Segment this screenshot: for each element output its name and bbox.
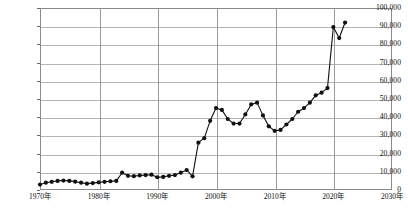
plot-area [40, 8, 392, 190]
y-tick-label: 40,000 [365, 113, 401, 121]
gridline-horizontal [41, 173, 391, 174]
gridline-vertical [276, 9, 277, 189]
x-tick-label: 2000年 [196, 193, 236, 201]
y-tick-label: 10,000 [365, 168, 401, 176]
y-tick-mark [37, 26, 40, 27]
gridline-vertical [334, 9, 335, 189]
y-tick-label: 30,000 [365, 131, 401, 139]
y-tick-mark [37, 99, 40, 100]
y-tick-mark [37, 190, 40, 191]
x-tick-label: 2010年 [255, 193, 295, 201]
gridline-vertical [158, 9, 159, 189]
y-tick-mark [37, 44, 40, 45]
y-tick-label: 60,000 [365, 77, 401, 85]
y-tick-mark [37, 117, 40, 118]
x-tick-label: 1970年 [20, 193, 60, 201]
gridline-horizontal [41, 155, 391, 156]
gridline-horizontal [41, 82, 391, 83]
y-tick-mark [37, 63, 40, 64]
x-tick-label: 1990年 [137, 193, 177, 201]
gridline-horizontal [41, 64, 391, 65]
y-tick-label: 50,000 [365, 95, 401, 103]
gridline-horizontal [41, 27, 391, 28]
y-tick-label: 80,000 [365, 40, 401, 48]
gridline-vertical [100, 9, 101, 189]
y-tick-label: 20,000 [365, 150, 401, 158]
y-tick-label: 100,000 [365, 4, 401, 12]
gridline-horizontal [41, 45, 391, 46]
y-tick-mark [37, 135, 40, 136]
gridline-horizontal [41, 100, 391, 101]
y-tick-label: 70,000 [365, 59, 401, 67]
gridline-vertical [217, 9, 218, 189]
x-tick-label: 2030年 [372, 193, 408, 201]
y-tick-mark [37, 172, 40, 173]
x-tick-label: 2020年 [313, 193, 353, 201]
y-tick-mark [37, 154, 40, 155]
y-tick-label: 90,000 [365, 22, 401, 30]
gridline-horizontal [41, 136, 391, 137]
x-tick-label: 1980年 [79, 193, 119, 201]
y-tick-mark [37, 8, 40, 9]
y-tick-mark [37, 81, 40, 82]
gridline-horizontal [41, 118, 391, 119]
